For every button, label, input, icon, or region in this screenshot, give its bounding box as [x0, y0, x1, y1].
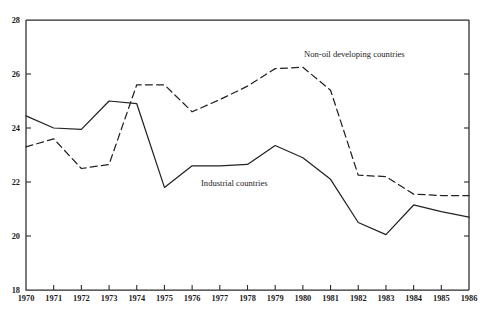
- x-tick-label: 1973: [101, 294, 118, 303]
- series-non-oil-developing-countries: [26, 67, 469, 195]
- line-chart: 282624222018 197019711972197319741975197…: [0, 0, 483, 309]
- x-tick-label: 1976: [184, 294, 201, 303]
- x-tick-label: 1980: [295, 294, 312, 303]
- x-tick-label: 1975: [156, 294, 173, 303]
- y-tick-label: 24: [12, 124, 21, 133]
- non-oil-developing-countries-label: Non-oil developing countries: [304, 49, 405, 59]
- plot-frame: [26, 20, 469, 290]
- x-tick-label: 1979: [267, 294, 284, 303]
- y-tick-label: 22: [12, 178, 20, 187]
- y-tick-label: 26: [12, 70, 20, 79]
- series-annotations: Non-oil developing countries Industrial …: [201, 49, 405, 188]
- x-tick-label: 1971: [45, 294, 62, 303]
- axis-frame: [26, 20, 469, 290]
- y-tick-label: 20: [12, 232, 20, 241]
- x-tick-label: 1985: [433, 294, 450, 303]
- x-tick-label: 1970: [18, 294, 35, 303]
- x-tick-label: 1984: [405, 294, 423, 303]
- x-tick-label: 1977: [211, 294, 228, 303]
- chart-container: 282624222018 197019711972197319741975197…: [0, 0, 483, 309]
- x-tick-label: 1972: [73, 294, 90, 303]
- series-industrial-countries: [26, 101, 469, 235]
- industrial-countries-label: Industrial countries: [201, 178, 268, 188]
- x-tick-label: 1983: [378, 294, 395, 303]
- x-tick-label: 1974: [128, 294, 146, 303]
- x-tick-label: 1986: [461, 294, 478, 303]
- x-tick-label: 1982: [350, 294, 367, 303]
- data-series-group: [26, 67, 469, 234]
- x-tick-label: 1981: [322, 294, 339, 303]
- y-tick-label: 28: [12, 16, 20, 25]
- x-tick-label: 1978: [239, 294, 256, 303]
- x-axis-ticks: 1970197119721973197419751976197719781979…: [18, 285, 478, 303]
